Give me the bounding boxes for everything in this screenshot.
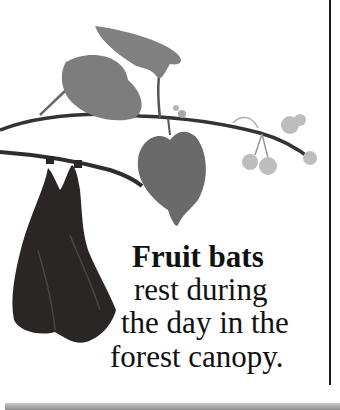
round-leaf-icon	[62, 55, 142, 120]
flower-cluster-icon	[242, 114, 317, 175]
heart-leaf-icon	[138, 132, 206, 226]
book-page: Fruit bats rest during the day in the fo…	[0, 0, 340, 410]
column-divider-rule	[329, 0, 331, 385]
caption-line-3: forest canopy.	[110, 340, 284, 373]
caption-line-2: the day in the	[121, 306, 289, 339]
page-bottom-edge	[5, 403, 340, 410]
caption-title: Fruit bats	[132, 240, 264, 273]
bat-icon	[12, 165, 116, 343]
caption-line-1: rest during	[134, 273, 267, 306]
